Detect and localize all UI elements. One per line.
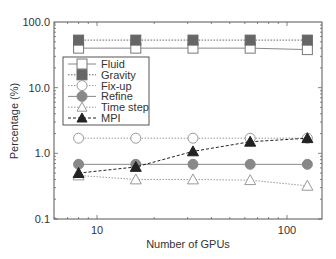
- series-gravity: [74, 35, 313, 45]
- legend: FluidGravityFix-upRefineTime stepMPI: [63, 57, 149, 125]
- series-fix-up: [74, 133, 313, 143]
- x-tick-label: 10: [91, 224, 103, 236]
- open-triangle-marker: [245, 175, 256, 185]
- y-tick-label: 10.0: [29, 82, 50, 94]
- open-circle-marker: [131, 133, 141, 143]
- open-square-marker: [77, 59, 87, 69]
- y-tick-label: 100.0: [22, 16, 50, 28]
- legend-label: MPI: [101, 112, 121, 124]
- filled-circle-marker: [302, 159, 312, 169]
- y-tick-label: 1.0: [35, 147, 50, 159]
- filled-circle-marker: [245, 159, 255, 169]
- x-axis-label: Number of GPUs: [146, 238, 230, 250]
- open-circle-marker: [74, 133, 84, 143]
- filled-circle-marker: [188, 159, 198, 169]
- filled-square-marker: [302, 35, 312, 45]
- open-circle-marker: [77, 81, 87, 91]
- series-time-step: [73, 170, 313, 190]
- filled-square-marker: [131, 35, 141, 45]
- chart: 0.11.010.0100.010100 FluidGravityFix-upR…: [0, 0, 336, 259]
- x-tick-label: 100: [278, 224, 296, 236]
- open-triangle-marker: [130, 174, 141, 184]
- filled-square-marker: [245, 35, 255, 45]
- filled-square-marker: [74, 35, 84, 45]
- y-axis-label: Percentage (%): [8, 83, 20, 159]
- chart-svg: 0.11.010.0100.010100 FluidGravityFix-upR…: [0, 0, 336, 259]
- filled-triangle-marker: [73, 168, 84, 178]
- series-refine: [74, 159, 313, 169]
- open-circle-marker: [188, 133, 198, 143]
- filled-square-marker: [77, 70, 87, 80]
- filled-square-marker: [188, 35, 198, 45]
- filled-circle-marker: [77, 91, 87, 101]
- open-triangle-marker: [187, 174, 198, 184]
- y-tick-label: 0.1: [35, 213, 50, 225]
- open-square-marker: [302, 45, 312, 55]
